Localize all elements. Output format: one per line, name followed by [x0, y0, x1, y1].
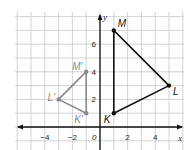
vertex-point [112, 28, 116, 32]
vertex-label: M' [72, 61, 83, 72]
vertex-label: K [104, 114, 112, 125]
y-tick-label: 6 [92, 40, 97, 49]
vertex-label: M [118, 18, 127, 29]
x-tick-label: −4 [40, 133, 50, 142]
x-tick-label: 2 [125, 133, 130, 142]
y-axis-label: y [102, 12, 107, 22]
x-tick-label: 4 [153, 133, 158, 142]
vertex-label: K' [74, 114, 84, 125]
x-axis-arrow-right-icon [177, 125, 183, 130]
vertex-point [84, 70, 88, 74]
vertex-point [84, 111, 88, 115]
x-axis-label: x [177, 133, 182, 143]
origin-label: 0 [92, 133, 97, 142]
vertex-label: L [173, 86, 179, 97]
x-axis-arrow-left-icon [17, 125, 23, 130]
vertex-point [112, 111, 116, 115]
vertex-point [167, 83, 171, 87]
x-tick-label: −2 [68, 133, 78, 142]
y-tick-label: 4 [92, 68, 97, 77]
y-tick-label: 2 [92, 95, 97, 104]
coordinate-plane: yx0−4−224246KLMK'L'M' [0, 0, 194, 150]
vertex-point [56, 97, 60, 101]
vertex-label: L' [48, 92, 57, 103]
